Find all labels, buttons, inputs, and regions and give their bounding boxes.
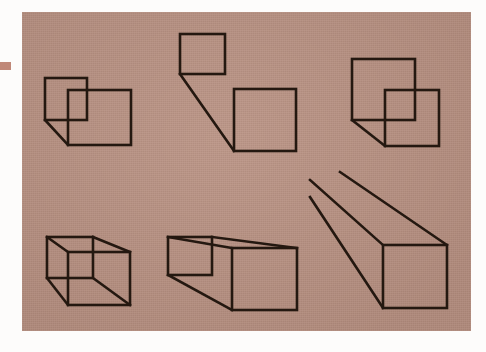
elongated-box-bottom-left-edge <box>168 275 232 310</box>
wireframe-cube <box>47 237 130 305</box>
separated-squares-single-connector-lower-left-diagonal <box>180 74 234 151</box>
overlapping-squares-small-behind-back-square <box>45 78 87 120</box>
diagram-page <box>0 0 486 352</box>
overlapping-squares-large-behind-front-square <box>385 90 439 146</box>
separated-squares-single-connector-back-square <box>180 34 225 74</box>
figure-group <box>0 0 486 352</box>
overlapping-squares-small-behind <box>45 78 131 145</box>
overlapping-squares-large-behind <box>352 59 439 146</box>
overlapping-squares-small-behind-front-square <box>68 90 131 145</box>
wireframe-cube-bottom-left-edge <box>47 278 68 305</box>
long-receding-box-top-right-long-edge <box>340 172 447 245</box>
long-receding-box-front-square <box>383 245 447 308</box>
separated-squares-single-connector <box>180 34 296 151</box>
overlapping-squares-small-behind-lower-left-diagonal <box>45 120 68 145</box>
wireframe-cube-bottom-right-edge <box>93 278 130 305</box>
wireframe-cube-top-left-edge <box>47 237 68 252</box>
elongated-box <box>168 237 297 310</box>
wireframe-cube-top-right-edge <box>93 237 130 252</box>
elongated-box-front-square <box>232 248 297 310</box>
overlapping-squares-large-behind-lower-left-diagonal <box>352 120 385 146</box>
separated-squares-single-connector-front-square <box>234 89 296 151</box>
long-receding-box <box>310 172 447 308</box>
